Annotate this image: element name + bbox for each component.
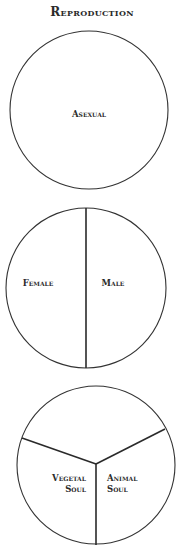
divider-left	[22, 438, 96, 464]
label-female: Female	[23, 278, 54, 288]
reproduction-diagram: Reproduction Asexual Female Male Vegetal…	[0, 0, 184, 557]
label-vegetal: Vegetal	[51, 473, 87, 483]
label-animal-soul: Soul	[107, 484, 129, 494]
label-asexual: Asexual	[71, 109, 107, 119]
label-male: Male	[102, 278, 125, 288]
asexual-circle-group: Asexual	[10, 31, 168, 189]
sexual-circle-group: Female Male	[6, 208, 166, 368]
soul-circle-group: Vegetal Soul Animal Soul	[17, 386, 175, 545]
label-vegetal-soul: Soul	[65, 484, 87, 494]
label-animal: Animal	[106, 473, 138, 483]
diagram-title: Reproduction	[50, 5, 134, 19]
divider-right	[96, 429, 165, 464]
